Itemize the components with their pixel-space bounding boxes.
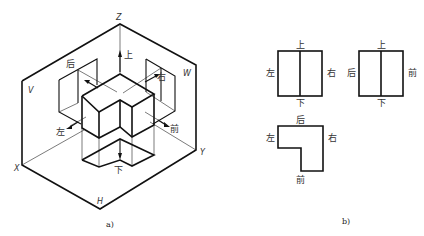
orthographic-views-figure: 上 下 左 右 上 下 后 前 后 前 左 右 b) <box>266 40 417 226</box>
top-view-left-label: 左 <box>266 132 275 143</box>
front-label: 前 <box>170 123 179 134</box>
arrow-right-icon <box>145 76 156 82</box>
back-label: 后 <box>66 59 75 69</box>
front-view-top-label: 上 <box>296 40 305 50</box>
front-view-right-label: 右 <box>327 67 336 78</box>
top-view-top-label: 后 <box>296 115 305 125</box>
top-view: 后 前 左 右 <box>266 115 337 185</box>
front-view-bottom-label: 下 <box>296 98 305 108</box>
projection-planes-outline <box>22 24 196 209</box>
side-view-right-label: 前 <box>408 67 417 78</box>
isometric-projection-figure: Z X Y V W H 上 下 后 右 左 前 a) <box>13 13 206 229</box>
top-view-bottom-label: 前 <box>296 174 305 185</box>
top-label: 上 <box>124 50 133 60</box>
x-axis-line <box>22 130 84 165</box>
w-plane-label: W <box>183 69 192 78</box>
h-plane-label: H <box>97 197 103 206</box>
z-axis-label: Z <box>115 13 122 22</box>
front-view-left-label: 左 <box>266 67 275 78</box>
side-view: 上 下 后 前 <box>347 40 417 108</box>
l-shaped-prism <box>82 74 154 167</box>
side-view-bottom-label: 下 <box>377 98 386 108</box>
figure-b-caption: b) <box>342 217 350 226</box>
projection-diagram: Z X Y V W H 上 下 后 右 左 前 a) 上 下 左 右 上 下 后 <box>0 0 424 236</box>
left-label: 左 <box>56 126 65 137</box>
top-view-right-label: 右 <box>328 132 337 143</box>
diagram-svg: Z X Y V W H 上 下 后 右 左 前 a) 上 下 左 右 上 下 后 <box>0 0 424 236</box>
x-axis-label: X <box>13 164 20 173</box>
right-label: 右 <box>157 71 166 82</box>
figure-a-caption: a) <box>106 220 114 229</box>
side-view-left-label: 后 <box>347 68 356 78</box>
side-view-top-label: 上 <box>377 40 386 50</box>
bottom-label: 下 <box>114 165 123 175</box>
v-plane-label: V <box>28 86 34 95</box>
front-view: 上 下 左 右 <box>266 40 336 108</box>
y-axis-label: Y <box>200 148 206 157</box>
